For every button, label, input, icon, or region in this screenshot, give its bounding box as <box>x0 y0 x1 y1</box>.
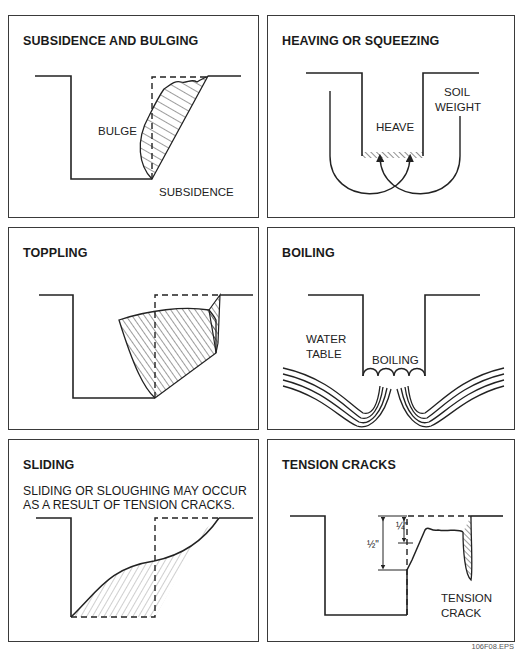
panel-title: SUBSIDENCE AND BULGING <box>23 34 198 48</box>
panel-toppling: TOPPLING <box>8 227 259 430</box>
figure-id: 106F08.EPS <box>471 642 514 651</box>
panel-sliding: SLIDING SLIDING OR SLOUGHING MAY OCCUR A… <box>8 439 259 642</box>
panel-boiling: BOILING WATER TABLE BOILING <box>267 227 515 430</box>
sliding-description-line1: SLIDING OR SLOUGHING MAY OCCUR <box>23 484 247 498</box>
sliding-description: SLIDING OR SLOUGHING MAY OCCUR AS A RESU… <box>23 484 247 512</box>
panel-subsidence-and-bulging: SUBSIDENCE AND BULGING BULGE SUBSIDENCE <box>8 15 259 218</box>
water-table-lines-right <box>397 368 504 427</box>
panel-title: TENSION CRACKS <box>282 458 396 472</box>
cropped-caption-strip <box>0 0 520 6</box>
panel-title: BOILING <box>282 246 335 260</box>
sliding-description-line2: AS A RESULT OF TENSION CRACKS. <box>23 498 247 512</box>
panel-title: SLIDING <box>23 458 74 472</box>
panel-heaving-or-squeezing: HEAVING OR SQUEEZING SOIL WEIGHT HEAVE <box>267 15 515 218</box>
panel-tension-cracks: TENSION CRACKS ¼" ½" TENSION CRACK <box>267 439 515 642</box>
water-table-lines-left <box>283 368 391 427</box>
panel-title: TOPPLING <box>23 246 87 260</box>
panel-title: HEAVING OR SQUEEZING <box>282 34 439 48</box>
